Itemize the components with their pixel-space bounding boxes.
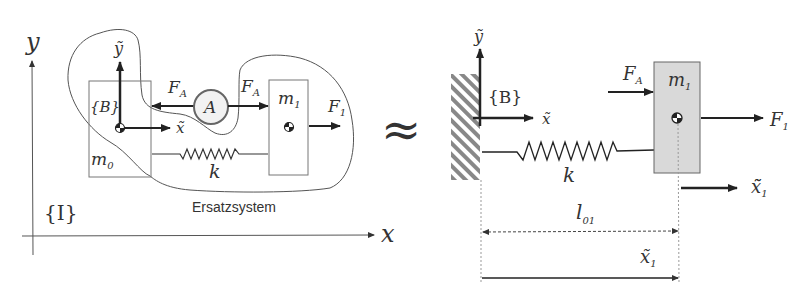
spring-k-right: [482, 142, 654, 160]
inertial-x-label: x: [381, 220, 395, 248]
mass-m0-label: m0: [91, 149, 114, 171]
inertial-y-label: y: [25, 28, 40, 56]
fixed-wall-hatch: [451, 74, 480, 180]
force-FA-label-right: FA: [622, 63, 643, 86]
mass-m1-label-left: m1: [278, 88, 301, 110]
diagram-canvas: y x {I} m0 {B} ỹ x̃ A FA FA m1: [0, 0, 803, 294]
position-label: x̃1: [640, 246, 657, 269]
rest-length-dimension: [483, 231, 678, 232]
force-FA-left-label: FA: [167, 77, 187, 99]
rest-length-label: l01: [576, 200, 595, 226]
body-frame-label-right: {B}: [488, 87, 522, 107]
substitute-system-label: Ersatzsystem: [192, 199, 276, 215]
center-of-mass-icon: [672, 113, 682, 123]
body-x-label-left: x̃: [176, 119, 185, 137]
spring-k-left: [152, 149, 268, 159]
right-diagram: ỹ x̃ {B} k m1 FA F1 x̃̃1 l01 x̃1: [451, 27, 789, 282]
force-F1-label-right: F1: [769, 109, 789, 132]
actuator-A-label: A: [202, 97, 216, 117]
approx-symbol: ≈: [381, 101, 421, 157]
inertial-frame-label: {I}: [44, 201, 77, 225]
force-FA-right-label: FA: [240, 76, 260, 98]
inertial-y-axis: [32, 61, 33, 255]
left-diagram: y x {I} m0 {B} ỹ x̃ A FA FA m1: [22, 28, 395, 255]
center-of-mass-icon: [116, 124, 125, 133]
body-y-label-left: ỹ: [113, 39, 124, 58]
force-F1-label-left: F1: [327, 96, 346, 118]
spring-k-label-left: k: [209, 160, 221, 182]
body-x-label-right: x̃: [542, 110, 551, 128]
inertial-x-axis: [22, 235, 374, 236]
displacement-label: x̃̃1: [751, 176, 768, 199]
body-y-label-right: ỹ: [473, 27, 484, 46]
center-of-mass-icon: [285, 123, 294, 132]
body-frame-label-left: {B}: [90, 98, 120, 116]
spring-k-label-right: k: [563, 163, 575, 187]
